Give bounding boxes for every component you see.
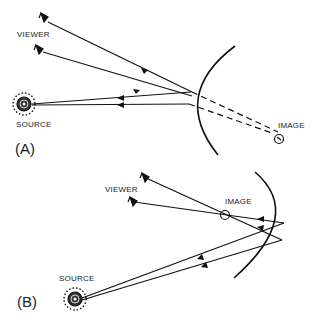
viewer-label-b: VIEWER	[105, 185, 138, 194]
viewer-b-eye-icon-1	[140, 173, 149, 182]
viewer-a-eye-icon-1	[39, 13, 48, 22]
viewer-b-eye-icon-2	[128, 197, 137, 206]
panel-a-diagram	[13, 13, 284, 155]
panel-label-b: (B)	[17, 293, 37, 310]
source-label-a: SOURCE	[16, 120, 51, 129]
source-label-b: SOURCE	[59, 274, 94, 283]
image-label-b: IMAGE	[225, 197, 252, 206]
mirror-a	[198, 46, 235, 155]
source-b-icon	[64, 288, 86, 310]
mirror-b	[234, 172, 276, 278]
viewer-label-a: VIEWER	[17, 30, 50, 39]
image-label-a: IMAGE	[278, 121, 305, 130]
ray-diagram	[0, 0, 316, 320]
panel-label-a: (A)	[15, 140, 35, 157]
source-a-icon	[13, 93, 35, 115]
panel-b-diagram	[64, 172, 284, 310]
viewer-a-eye-icon-2	[34, 45, 43, 54]
